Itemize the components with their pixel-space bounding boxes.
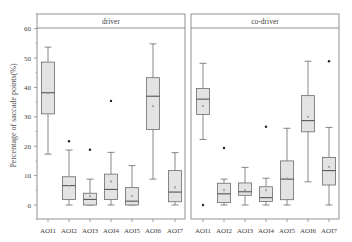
mean-marker (307, 116, 309, 118)
boxplot-chart: 0102030405060driverAOI1AOI2AOI3AOI4AOI5A… (0, 0, 352, 242)
box-aoi3 (239, 167, 252, 205)
box-aoi4 (260, 126, 273, 205)
panel-title: co-driver (251, 17, 279, 26)
y-tick-label: 60 (24, 25, 32, 33)
x-tick-label: AOI7 (167, 227, 183, 235)
panel-title: driver (102, 17, 120, 26)
box-aoi6 (302, 61, 315, 182)
outlier-point (223, 147, 225, 149)
outlier-point (110, 100, 112, 102)
x-tick-label: AOI1 (40, 227, 56, 235)
mean-marker (328, 166, 330, 168)
box-aoi1 (197, 63, 210, 206)
box-aoi1 (42, 47, 55, 154)
x-tick-label: AOI3 (237, 227, 253, 235)
outlier-point (89, 149, 91, 151)
box-aoi7 (323, 60, 336, 205)
mean-marker (174, 186, 176, 188)
box-aoi3 (84, 149, 97, 205)
x-tick-label: AOI5 (124, 227, 140, 235)
y-tick-label: 30 (24, 113, 32, 121)
mean-marker (202, 105, 204, 107)
mean-marker (286, 178, 288, 180)
y-tick-label: 40 (24, 84, 32, 92)
panel-driver: driverAOI1AOI2AOI3AOI4AOI5AOI6AOI7 (37, 14, 185, 235)
mean-marker (47, 92, 49, 94)
box-aoi2 (63, 140, 76, 205)
mean-marker (265, 189, 267, 191)
box-aoi7 (169, 153, 182, 205)
y-tick-label: 20 (24, 143, 32, 151)
mean-marker (131, 195, 133, 197)
x-tick-label: AOI2 (61, 227, 77, 235)
box-aoi2 (218, 147, 231, 205)
x-tick-label: AOI5 (279, 227, 295, 235)
x-tick-label: AOI7 (321, 227, 337, 235)
x-tick-label: AOI1 (195, 227, 211, 235)
y-tick-label: 10 (24, 172, 32, 180)
x-tick-label: AOI6 (145, 227, 161, 235)
mean-marker (152, 105, 154, 107)
mean-marker (110, 181, 112, 183)
outlier-point (68, 140, 70, 142)
panel-co-driver: co-driverAOI1AOI2AOI3AOI4AOI5AOI6AOI7 (191, 14, 339, 235)
box-aoi5 (126, 166, 139, 205)
box-aoi4 (105, 100, 118, 205)
x-tick-label: AOI2 (216, 227, 232, 235)
mean-marker (89, 195, 91, 197)
y-tick-label: 0 (28, 202, 32, 210)
mean-marker (244, 189, 246, 191)
mean-marker (68, 185, 70, 187)
y-tick-label: 50 (24, 55, 32, 63)
outlier-point (202, 204, 204, 206)
outlier-point (328, 60, 330, 62)
box-aoi6 (147, 44, 160, 179)
x-tick-label: AOI6 (300, 227, 316, 235)
x-tick-label: AOI3 (82, 227, 98, 235)
box-aoi5 (281, 128, 294, 205)
outlier-point (265, 126, 267, 128)
x-tick-label: AOI4 (258, 227, 274, 235)
mean-marker (223, 189, 225, 191)
y-axis: 0102030405060 (24, 14, 37, 220)
x-tick-label: AOI4 (103, 227, 119, 235)
